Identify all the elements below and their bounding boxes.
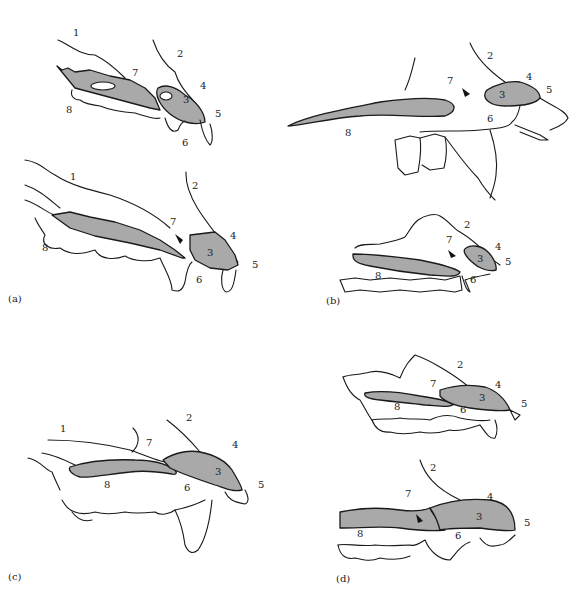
svg-text:8: 8 [104,479,110,490]
svg-text:7: 7 [405,488,411,499]
svg-text:1: 1 [60,423,66,434]
svg-text:6: 6 [470,274,476,285]
svg-text:5: 5 [521,398,527,409]
panel-label-d: (d) [336,573,350,584]
svg-text:2: 2 [177,48,183,59]
panel-label-b: (b) [326,295,340,306]
svg-text:1: 1 [73,27,79,38]
svg-text:2: 2 [186,412,192,423]
svg-text:4: 4 [495,379,501,390]
svg-text:2: 2 [487,50,493,61]
svg-text:6: 6 [487,113,493,124]
panel-label-c: (c) [8,571,22,582]
svg-text:8: 8 [42,242,48,253]
svg-text:4: 4 [526,71,532,82]
panel-d-top-drawing [343,355,520,438]
svg-text:4: 4 [232,439,238,450]
svg-text:3: 3 [477,253,483,264]
svg-text:5: 5 [252,259,258,270]
svg-text:6: 6 [196,274,202,285]
svg-text:8: 8 [66,104,72,115]
svg-text:2: 2 [192,180,198,191]
svg-text:8: 8 [357,528,363,539]
svg-text:2: 2 [464,219,470,230]
svg-text:7: 7 [170,216,176,227]
svg-text:7: 7 [447,75,453,86]
svg-text:4: 4 [230,230,236,241]
svg-text:5: 5 [258,479,264,490]
svg-text:5: 5 [524,517,530,528]
svg-text:3: 3 [479,392,485,403]
svg-text:6: 6 [460,404,466,415]
svg-text:3: 3 [499,89,505,100]
svg-text:8: 8 [394,401,400,412]
svg-text:4: 4 [495,241,501,252]
svg-text:3: 3 [215,466,221,477]
svg-text:2: 2 [457,359,463,370]
anatomical-figure: 1 2 3 4 5 6 7 8 1 2 3 4 5 6 7 8 2 3 4 5 … [0,0,579,600]
svg-text:2: 2 [430,462,436,473]
svg-text:5: 5 [505,256,511,267]
svg-text:6: 6 [184,482,190,493]
svg-text:3: 3 [207,247,213,258]
svg-text:7: 7 [146,437,152,448]
svg-text:6: 6 [182,137,188,148]
svg-text:3: 3 [183,94,189,105]
svg-text:6: 6 [455,530,461,541]
svg-text:8: 8 [345,127,351,138]
svg-text:7: 7 [132,67,138,78]
panel-c-drawing [28,420,248,552]
panel-b-top-drawing [288,43,568,200]
panel-a-top-drawing [57,40,212,145]
panel-a-bottom-drawing [25,160,238,292]
svg-text:3: 3 [476,511,482,522]
svg-text:4: 4 [200,80,206,91]
panel-letters: (a) (b) (c) (d) [8,293,350,584]
svg-text:8: 8 [375,270,381,281]
panel-d-bottom-drawing [338,460,515,560]
svg-text:5: 5 [546,84,552,95]
svg-text:5: 5 [215,108,221,119]
svg-text:4: 4 [487,491,493,502]
svg-text:7: 7 [430,378,436,389]
panel-label-a: (a) [8,293,22,304]
svg-text:7: 7 [446,234,452,245]
svg-text:1: 1 [70,171,76,182]
